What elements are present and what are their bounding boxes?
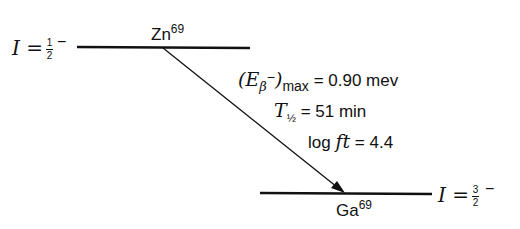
beta-decay-diagram: I =12− Zn69 (Eβ−)max = 0.90 mev T½ = 51 … <box>0 0 520 229</box>
arrow-head-icon <box>331 181 345 193</box>
daughter-nuclide: Ga69 <box>336 198 372 221</box>
parent-nuclide: Zn69 <box>151 22 184 45</box>
daughter-level-line <box>260 193 432 194</box>
parent-spin: I =12− <box>12 33 66 61</box>
halflife-annotation: T½ = 51 min <box>274 99 366 124</box>
energy-annotation: (Eβ−)max = 0.90 mev <box>238 68 398 94</box>
daughter-spin: I =32− <box>438 180 494 208</box>
logft-annotation: log ft = 4.4 <box>308 130 393 153</box>
